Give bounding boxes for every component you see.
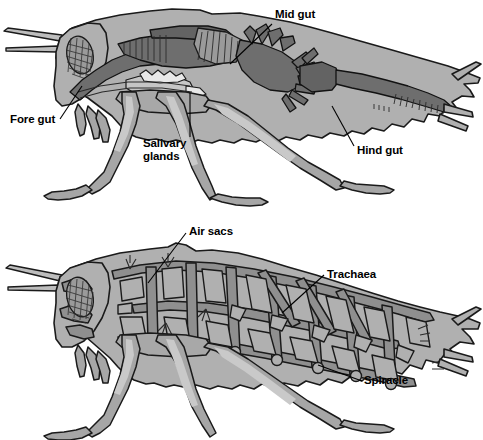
label-hind-gut: Hind gut (357, 144, 403, 157)
cercus-mid (444, 104, 473, 117)
antenna-lower-icon-2 (8, 285, 58, 291)
label-salivary-glands: Salivary glands (143, 137, 186, 162)
digestive-system-panel: Mid gut Fore gut Salivary glands Hind gu… (0, 0, 483, 215)
foreleg-tarsus-2 (44, 427, 92, 440)
antenna-upper-icon (4, 28, 62, 41)
cercus-lower (438, 114, 468, 131)
hind-gut-bulb (300, 62, 340, 92)
figure-canvas: Mid gut Fore gut Salivary glands Hind gu… (0, 0, 483, 440)
label-trachaea: Trachaea (327, 268, 376, 281)
antenna-upper-icon-2 (6, 265, 62, 281)
cercus-mid-2 (444, 349, 473, 362)
midleg-tarsus (210, 194, 268, 206)
cercus-lower-2 (438, 359, 468, 376)
antenna-lower-icon (6, 46, 58, 52)
label-fore-gut: Fore gut (10, 113, 55, 126)
label-spiracle: Spiracle (364, 374, 408, 387)
hindleg-tarsus-2 (340, 420, 394, 433)
respiratory-system-panel: Air sacs Trachaea Spiracle (0, 213, 483, 440)
maxillary-palp-1b (75, 345, 86, 377)
hindleg-tarsus (340, 181, 394, 194)
maxillary-palp-1 (75, 104, 86, 136)
digestive-system-drawing (0, 0, 483, 215)
foreleg-tarsus (44, 185, 92, 200)
label-mid-gut: Mid gut (275, 8, 315, 21)
respiratory-system-drawing (0, 213, 483, 440)
label-air-sacs: Air sacs (189, 225, 233, 238)
